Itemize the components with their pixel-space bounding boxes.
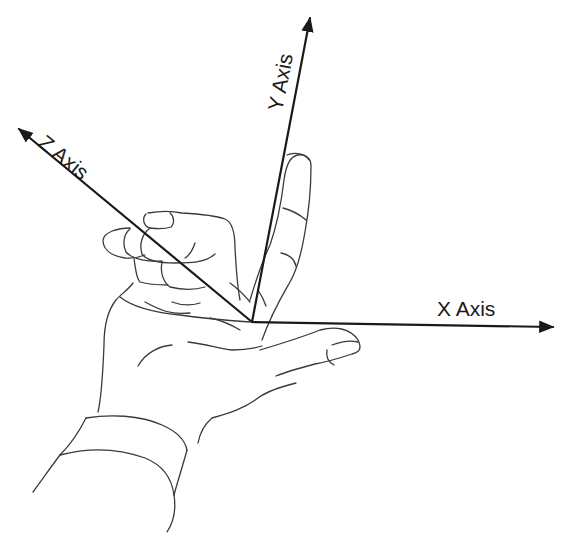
sleeve-cuff — [86, 416, 187, 450]
y-axis-label: Y Axis — [263, 51, 297, 112]
hand-illustration — [33, 153, 360, 532]
x-axis-label: X Axis — [437, 297, 495, 320]
index-finger — [250, 155, 311, 340]
thumb — [260, 328, 360, 376]
x-axis-line — [252, 322, 553, 327]
curled-fingers — [148, 212, 240, 301]
z-axis-label: Z Axis — [34, 130, 93, 184]
right-hand-rule-diagram: X Axis Y Axis Z Axis — [0, 0, 565, 537]
